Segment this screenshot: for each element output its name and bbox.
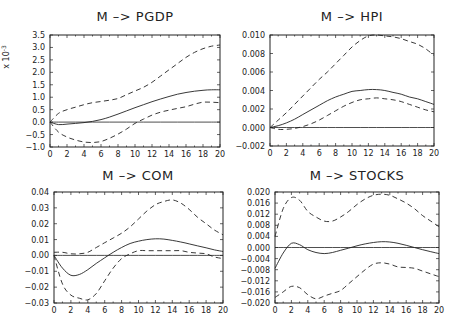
x-tick-label: 14 [385,306,395,315]
y-tick-label: 0.002 [242,105,265,114]
x-tick-label: 2 [68,306,73,315]
x-tick-label: 14 [164,150,174,159]
y-tick-label: 0.016 [247,199,270,208]
y-tick-label: 0.000 [242,124,265,133]
x-tick-label: 14 [167,306,177,315]
x-tick-label: 8 [338,306,343,315]
y-tick-label: 0.03 [31,204,49,213]
y-tick-label: −0.016 [240,288,270,297]
y-tick-label: −0.03 [24,299,49,308]
x-tick-label: 8 [115,150,120,159]
y-tick-label: 0.012 [247,210,270,219]
y-tick-label: 0.008 [247,221,270,230]
chart-panel-3: M –> COM02468101214161820−0.03−0.02−0.01… [24,168,228,315]
y-tick-label: 2.0 [32,68,45,77]
x-tick-label: 18 [418,306,428,315]
x-tick-label: 8 [119,306,124,315]
y-tick-label: 0.0 [32,118,45,127]
y-tick-label: 0.006 [242,68,265,77]
series-upper-band [270,35,434,128]
x-tick-label: 12 [150,306,160,315]
x-tick-label: 14 [380,149,390,158]
x-tick-label: 0 [51,306,56,315]
y-tick-label: 3.0 [32,43,45,52]
series-response [270,89,434,127]
x-tick-label: 4 [305,306,310,315]
x-tick-label: 0 [272,306,277,315]
y-tick-label: 0.000 [247,244,270,253]
series-lower-band [54,250,223,300]
x-tick-label: 10 [352,306,362,315]
x-tick-label: 12 [147,150,157,159]
x-tick-label: 4 [300,149,305,158]
y-tick-label: 0.020 [247,188,270,197]
x-tick-label: 4 [81,150,86,159]
x-tick-label: 0 [47,150,52,159]
x-tick-label: 18 [201,306,211,315]
y-tick-label: 3.5 [32,31,45,40]
y-tick-label: −0.01 [24,267,49,276]
x-tick-label: 0 [267,149,272,158]
y-tick-label: 0.01 [31,236,49,245]
y-tick-label: 0.008 [242,50,265,59]
y-tick-label: 0.02 [31,220,49,229]
x-tick-label: 20 [215,150,225,159]
x-tick-label: 6 [322,306,327,315]
x-tick-label: 16 [184,306,194,315]
plot-frame [270,35,434,146]
chart-title: M –> STOCKS [310,168,405,183]
x-tick-label: 8 [333,149,338,158]
x-tick-label: 4 [85,306,90,315]
x-tick-label: 12 [368,306,378,315]
x-tick-label: 2 [289,306,294,315]
y-tick-label: 0.004 [242,87,265,96]
chart-title: M –> HPI [321,9,383,24]
y-tick-label: −0.004 [240,255,270,264]
y-tick-label: 1.5 [32,81,45,90]
y-tick-label: −0.02 [24,283,49,292]
y-tick-label: 2.5 [32,56,45,65]
y-tick-label: 0.010 [242,31,265,40]
series-response [275,242,439,269]
x-tick-label: 16 [401,306,411,315]
x-tick-label: 6 [102,306,107,315]
series-lower-band [275,263,439,299]
series-upper-band [50,45,220,122]
y-tick-label: 0.04 [31,188,49,197]
chart-panel-2: M –> HPI02468101214161820−0.0020.0000.00… [235,9,439,158]
y-tick-label: −0.5 [26,131,45,140]
y-tick-label: −0.020 [240,299,270,308]
x-tick-label: 20 [218,306,228,315]
series-response [54,239,223,276]
x-tick-label: 2 [64,150,69,159]
x-tick-label: 10 [347,149,357,158]
chart-title: M –> COM [102,168,173,183]
x-tick-label: 18 [198,150,208,159]
y-tick-label: 0.004 [247,232,270,241]
x-tick-label: 2 [284,149,289,158]
chart-panel-4: M –> STOCKS02468101214161820−0.020−0.016… [240,168,444,315]
chart-title: M –> PGDP [96,9,173,24]
x-tick-label: 6 [98,150,103,159]
x-tick-label: 10 [130,150,140,159]
x-tick-label: 16 [181,150,191,159]
series-upper-band [275,194,439,236]
x-tick-label: 20 [429,149,439,158]
y-tick-label: −0.012 [240,277,270,286]
y-tick-label: −0.008 [240,266,270,275]
x-tick-label: 20 [434,306,444,315]
chart-panel-1: M –> PGDP02468101214161820−1.0−0.50.00.5… [0,9,225,159]
y-tick-label: 1.0 [32,93,45,102]
impulse-response-figure: M –> PGDP02468101214161820−1.0−0.50.00.5… [0,0,458,329]
y-tick-label: −1.0 [26,143,45,152]
x-tick-label: 12 [363,149,373,158]
series-lower-band [270,98,434,130]
y-tick-label: −0.002 [235,142,265,151]
y-tick-label: 0.5 [32,106,45,115]
x-tick-label: 18 [413,149,423,158]
y-axis-multiplier: x 10-3 [0,45,11,69]
plot-frame [54,192,223,303]
x-tick-label: 10 [133,306,143,315]
x-tick-label: 16 [396,149,406,158]
y-tick-label: 0.00 [31,251,49,260]
